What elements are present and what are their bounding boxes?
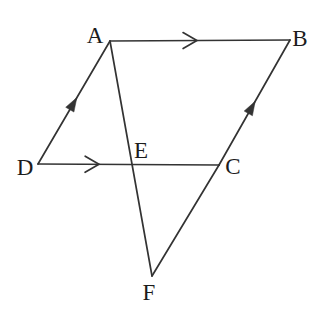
point-label-C: C xyxy=(225,154,240,179)
point-label-F: F xyxy=(143,280,156,305)
point-label-D: D xyxy=(17,155,34,180)
point-label-A: A xyxy=(87,23,104,48)
point-label-E: E xyxy=(134,138,148,163)
segment-DC xyxy=(38,164,219,165)
parallel-arrowhead-marker-CB xyxy=(244,101,255,116)
segment-FC xyxy=(152,165,219,276)
geometry-figure-canvas: ABCDEF xyxy=(0,0,316,318)
parallel-arrowhead-marker-DA xyxy=(66,98,77,112)
geometry-figure: ABCDEF xyxy=(0,0,316,318)
segment-AB xyxy=(110,40,290,41)
point-label-B: B xyxy=(292,26,307,51)
